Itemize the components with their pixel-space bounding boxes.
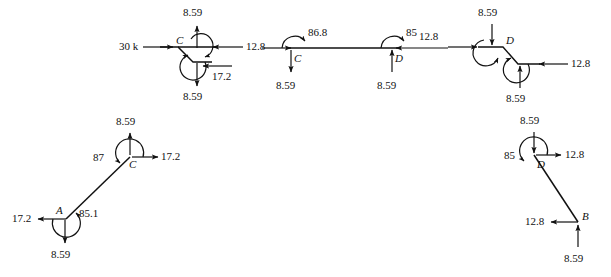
joint-label-a: A bbox=[55, 204, 63, 216]
force-label-inner-172: 17.2 bbox=[212, 70, 231, 82]
force-label-a-down-859: 8.59 bbox=[51, 248, 71, 260]
force-label-b-up-859: 8.59 bbox=[564, 252, 584, 264]
force-label-left-30k: 30 k bbox=[119, 40, 139, 52]
joint-label-beam-c: C bbox=[294, 52, 302, 64]
free-body-diagram-figure: 30 k 8.59 12.8 8.59 17.2 C 86.8 8.59 C bbox=[0, 0, 611, 277]
force-label-top-859: 8.59 bbox=[183, 6, 203, 18]
moment-arc-top-c bbox=[191, 34, 213, 57]
force-label-d-bottom-859: 8.59 bbox=[506, 92, 526, 104]
moment-arc-top-d bbox=[473, 40, 498, 66]
force-label-c-up-859: 8.59 bbox=[116, 115, 136, 127]
force-label-beam-right-up-859: 8.59 bbox=[377, 79, 397, 91]
force-label-a-left-172: 17.2 bbox=[12, 212, 31, 224]
fbd-beam-cd-middle: 86.8 8.59 C 85 8.59 D 12.8 bbox=[262, 26, 448, 91]
force-label-beam-left-down-859: 8.59 bbox=[276, 79, 296, 91]
force-label-b-left-128: 12.8 bbox=[525, 215, 545, 227]
joint-label-ac-c: C bbox=[129, 158, 137, 170]
force-label-right-128: 12.8 bbox=[246, 40, 266, 52]
force-label-d-down-859: 8.59 bbox=[520, 114, 540, 126]
moment-arc-right-85 bbox=[381, 36, 404, 48]
fbd-joint-d-top-right: 8.59 12.8 8.59 D bbox=[448, 6, 591, 104]
member-stepped-d bbox=[478, 47, 540, 64]
joint-label-d: D bbox=[505, 34, 514, 46]
moment-label-right-85: 85 bbox=[406, 26, 418, 38]
moment-label-c-87: 87 bbox=[93, 151, 105, 163]
moment-arc-a-851 bbox=[52, 213, 80, 237]
force-label-d-top-859: 8.59 bbox=[478, 6, 498, 18]
moment-label-d-85: 85 bbox=[504, 149, 516, 161]
joint-label-b: B bbox=[582, 210, 589, 222]
force-label-c-right-172: 17.2 bbox=[161, 150, 180, 162]
joint-label-c: C bbox=[176, 34, 184, 46]
moment-label-a-851: 85.1 bbox=[79, 207, 98, 219]
joint-label-beam-d: D bbox=[394, 52, 403, 64]
fbd-joint-c-top-left: 30 k 8.59 12.8 8.59 17.2 C bbox=[119, 6, 266, 102]
fbd-member-ac-lower-left: 8.59 87 17.2 C 17.2 85.1 8.59 A bbox=[12, 115, 180, 260]
joint-label-db-d: D bbox=[536, 158, 545, 170]
fbd-member-db-lower-right: 8.59 85 12.8 D 12.8 8.59 B bbox=[504, 114, 589, 264]
force-label-bottom-859: 8.59 bbox=[183, 90, 203, 102]
force-label-beam-right-128: 12.8 bbox=[419, 30, 439, 42]
moment-arc-left-868 bbox=[282, 36, 305, 48]
figure-canvas: 30 k 8.59 12.8 8.59 17.2 C 86.8 8.59 C bbox=[0, 0, 611, 277]
moment-label-left-868: 86.8 bbox=[308, 26, 328, 38]
member-stepped-c bbox=[160, 47, 212, 62]
force-label-d-right-128b: 12.8 bbox=[565, 148, 585, 160]
force-label-d-right-128: 12.8 bbox=[571, 57, 591, 69]
moment-arc-bottom-c bbox=[180, 55, 206, 80]
